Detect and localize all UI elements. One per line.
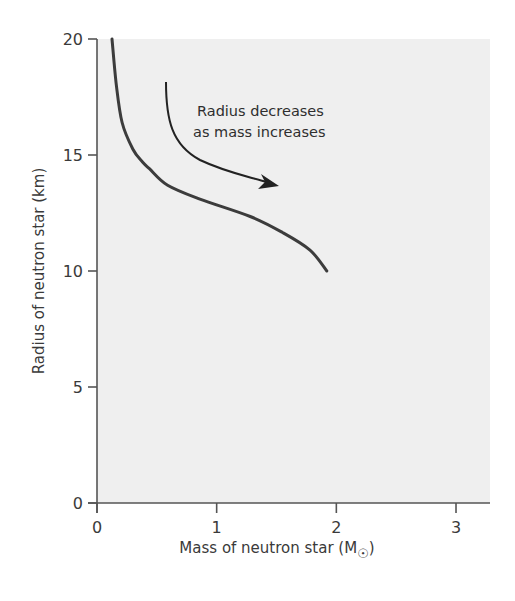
x-tick-label: 3 [451,518,461,537]
annotation-line-1: Radius decreases [197,103,324,119]
x-tick-label: 2 [331,518,341,537]
y-axis: 05101520 [63,30,97,513]
y-tick-label: 10 [63,262,83,281]
x-axis: 0123 [88,503,490,537]
chart: 05101520 0123 Mass of neutron star (M☉) … [0,0,515,601]
y-tick-label: 20 [63,30,83,49]
x-tick-label: 0 [92,518,102,537]
y-tick-label: 15 [63,146,83,165]
x-axis-title: Mass of neutron star (M☉) [179,539,374,561]
y-tick-label: 5 [73,378,83,397]
annotation-line-2: as mass increases [193,124,325,140]
y-axis-title: Radius of neutron star (km) [30,168,48,375]
y-tick-label: 0 [73,494,83,513]
x-tick-label: 1 [212,518,222,537]
